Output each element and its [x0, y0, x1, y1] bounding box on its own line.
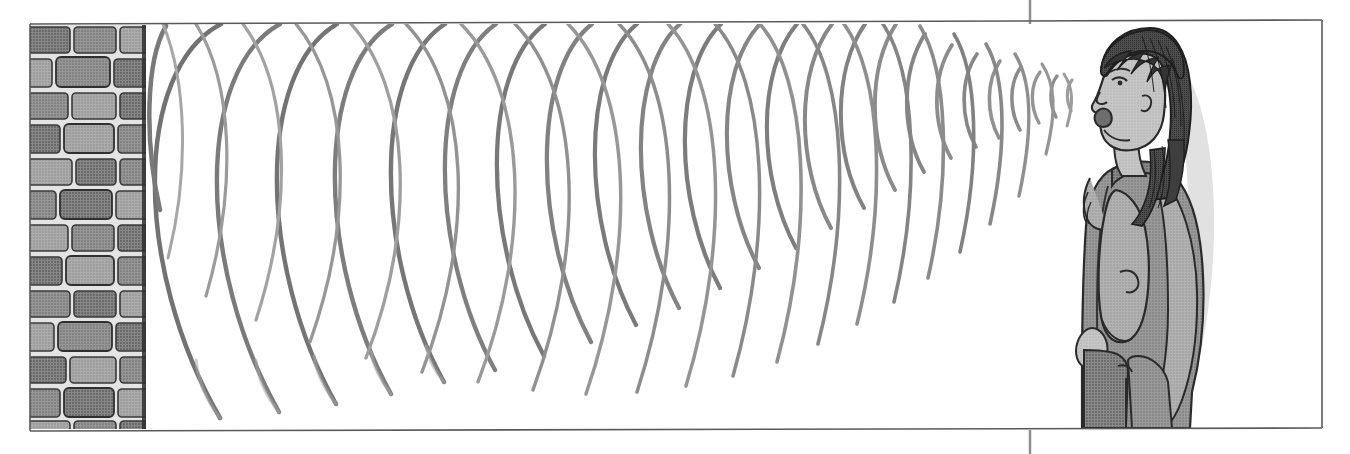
brick-row: [24, 256, 154, 285]
figure-page: A girl stands at the right facing left, …: [0, 0, 1350, 454]
brick-row: [22, 322, 154, 351]
echo-illustration: [0, 0, 1350, 454]
pupil: [1118, 81, 1123, 86]
pants-front-leg: [1084, 350, 1128, 428]
brick-row: [26, 93, 154, 119]
open-mouth: [1095, 109, 1112, 127]
brick-row: [26, 291, 154, 317]
brick-row: [22, 190, 154, 219]
brick-row: [24, 124, 154, 153]
brick-row: [26, 225, 154, 251]
brick-row: [22, 57, 154, 87]
brick-row: [26, 27, 154, 53]
brick-row: [26, 357, 154, 383]
brick-wall: [22, 25, 154, 443]
brick-row: [24, 388, 154, 417]
brick-row: [26, 159, 154, 185]
